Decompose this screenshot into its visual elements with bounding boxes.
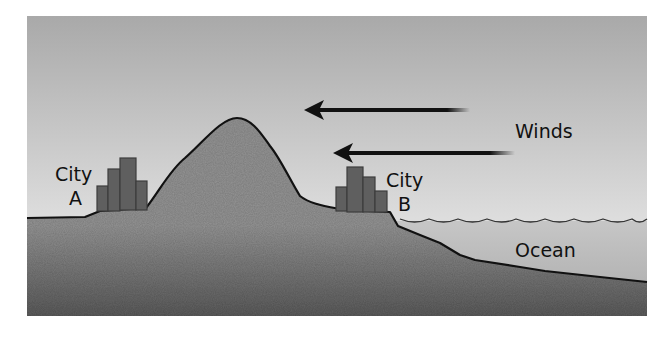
winds-label: Winds (515, 120, 573, 142)
city-a-label-line1: City (55, 163, 92, 185)
city-b-label-line1: City (386, 169, 423, 191)
building (120, 158, 136, 210)
building (136, 181, 147, 210)
city-a-label-line2: A (69, 187, 82, 209)
building (347, 167, 363, 212)
ocean-label: Ocean (515, 239, 576, 261)
building (336, 187, 347, 211)
building (97, 186, 108, 211)
building (363, 177, 375, 212)
building (108, 169, 120, 211)
building (375, 191, 387, 212)
city-b-label-line2: B (398, 193, 411, 215)
rain-shadow-diagram: Winds Ocean City A City B (0, 0, 665, 340)
